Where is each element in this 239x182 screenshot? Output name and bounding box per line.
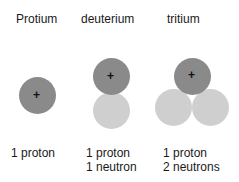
neutrons-count: 1 neutron [86,160,137,174]
protons-count: 1 proton [11,146,55,160]
plus-sign: + [107,70,114,82]
plus-sign: + [188,69,195,81]
deuterium-neutron [93,92,130,129]
deuterium-composition: 1 proton 1 neutron [86,146,137,174]
title-deuterium: deuterium [81,12,134,26]
title-tritium: tritium [167,12,200,26]
protons-count: 1 proton [86,146,137,160]
protium-composition: 1 proton [11,146,55,160]
tritium-composition: 1 proton 2 neutrons [163,146,220,174]
neutrons-count: 2 neutrons [163,160,220,174]
protons-count: 1 proton [163,146,220,160]
plus-sign: + [33,89,40,101]
tritium-neutron [192,89,229,126]
title-protium: Protium [16,12,57,26]
tritium-neutron [155,89,192,126]
